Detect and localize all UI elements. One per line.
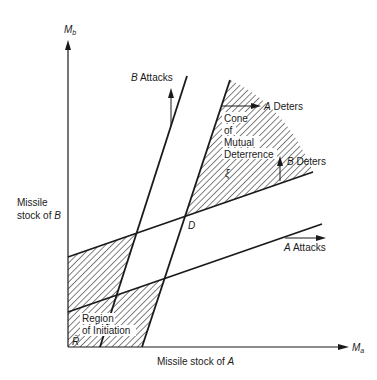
region-label-line1: Region [82,313,114,324]
b-attacks-arrowhead-icon [168,88,174,98]
y-axis-label: Mb [64,24,76,36]
x-axis-title: Missile stock of A [157,356,235,367]
b-deters-line [68,172,313,257]
y-axis-arrowhead-icon [65,40,71,50]
a-attacks-label: A Attacks [283,242,326,253]
b-deters-label: B Deters [287,156,326,167]
b-attacks-label: B Attacks [131,72,173,83]
region-label-line2: of Initiation [82,325,130,336]
cone-label-line3: Mutual [224,137,254,148]
y-axis-title-line2: stock of B [17,210,61,221]
cone-label-line2: of [224,125,233,136]
y-axis-title-line1: Missile [17,197,48,208]
region-symbol: R̄ [72,335,79,347]
x-axis-label: Ma [352,342,364,354]
a-attacks-arrowhead-icon [316,235,326,241]
a-deters-label: A Deters [263,101,303,112]
a-deters-line [142,80,230,347]
x-axis-arrowhead-icon [338,344,349,350]
deterrence-diagram: Mb Ma Missile stock of B Missile stock o… [0,0,377,380]
cone-label-line4: Deterrence [224,149,274,160]
point-d-label: D [188,220,195,231]
cone-symbol: ξ [225,168,230,180]
cone-label-line1: Cone [224,113,248,124]
